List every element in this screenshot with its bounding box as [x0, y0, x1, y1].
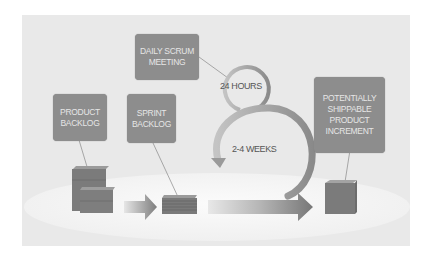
- increment-label-2: SHIPPABLE: [328, 104, 372, 115]
- sprint-backlog-stack: [162, 195, 197, 214]
- sprint-loop-label: 2-4 WEEKS: [232, 144, 276, 154]
- daily-scrum-label-1: DAILY SCRUM: [140, 46, 194, 57]
- daily-loop-label: 24 HOURS: [220, 81, 262, 91]
- sprint-backlog-label-1: SPRINT: [137, 108, 166, 119]
- increment-label-4: INCREMENT: [326, 126, 374, 137]
- product-backlog-cubes: [72, 166, 115, 213]
- increment-box: POTENTIALLY SHIPPABLE PRODUCT INCREMENT: [314, 77, 385, 153]
- increment-label-3: PRODUCT: [330, 115, 370, 126]
- product-backlog-label-1: PRODUCT: [60, 107, 100, 118]
- sprint-backlog-box: SPRINT BACKLOG: [127, 94, 176, 143]
- increment-label-1: POTENTIALLY: [323, 93, 377, 104]
- product-backlog-label-2: BACKLOG: [61, 118, 100, 129]
- sprint-backlog-label-2: BACKLOG: [132, 119, 171, 130]
- daily-scrum-label-2: MEETING: [149, 57, 186, 68]
- increment-cube: [325, 180, 357, 214]
- daily-scrum-box: DAILY SCRUM MEETING: [135, 34, 199, 80]
- product-backlog-box: PRODUCT BACKLOG: [53, 94, 107, 141]
